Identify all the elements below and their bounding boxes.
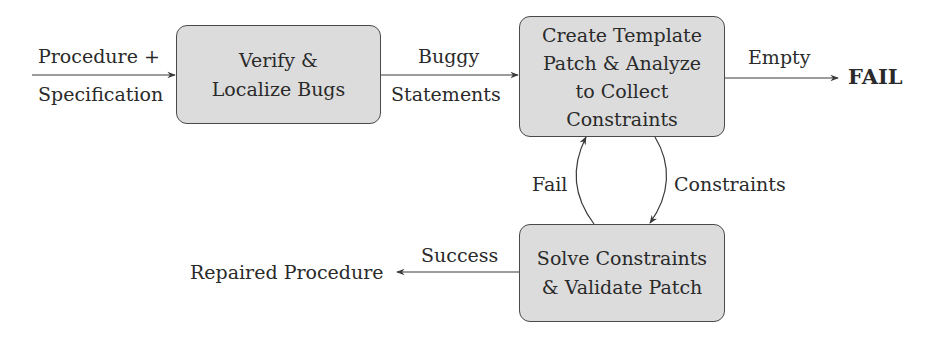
node-line: Create Template xyxy=(542,21,702,49)
edge-label-constraints: Constraints xyxy=(674,173,786,195)
input-label-bottom: Specification xyxy=(38,83,163,105)
create-template-node: Create Template Patch & Analyze to Colle… xyxy=(519,16,725,137)
output-terminal: Repaired Procedure xyxy=(190,261,384,283)
fail-terminal: FAIL xyxy=(848,66,903,88)
edge-label-buggy: Buggy xyxy=(418,45,479,67)
node-line: Constraints xyxy=(566,105,678,133)
edge-label-empty: Empty xyxy=(748,46,810,68)
input-label-top: Procedure + xyxy=(38,45,160,67)
constraints-loop-arrow xyxy=(650,137,666,223)
solve-validate-node: Solve Constraints & Validate Patch xyxy=(519,224,725,322)
node-line: Solve Constraints xyxy=(537,244,707,273)
node-line: & Validate Patch xyxy=(542,273,703,302)
node-line: Verify & xyxy=(239,46,318,75)
node-line: to Collect xyxy=(576,77,669,105)
edge-label-fail: Fail xyxy=(532,173,567,195)
verify-localize-node: Verify & Localize Bugs xyxy=(176,25,381,124)
edge-label-statements: Statements xyxy=(391,83,501,105)
edge-label-success: Success xyxy=(421,244,498,266)
fail-loop-arrow xyxy=(576,137,594,224)
node-line: Localize Bugs xyxy=(212,75,346,104)
node-line: Patch & Analyze xyxy=(543,49,701,77)
